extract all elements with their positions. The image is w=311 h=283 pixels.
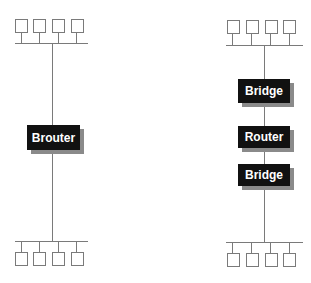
router-label: Router [245, 130, 284, 144]
left-top-drop-3 [58, 33, 59, 43]
left-top-drop-1 [21, 33, 22, 43]
left-bottom-bus [15, 241, 88, 242]
right-bottom-bus [226, 242, 303, 243]
right-top-drop-2 [251, 34, 252, 45]
bridge-bottom-label: Bridge [245, 168, 283, 182]
right-bottom-drop-1 [232, 242, 233, 253]
right-bottom-host-3 [265, 253, 278, 267]
left-bottom-host-1 [15, 252, 28, 266]
right-top-host-1 [227, 20, 240, 34]
left-top-drop-4 [76, 33, 77, 43]
bridge-top-label: Bridge [245, 84, 283, 98]
left-bottom-drop-3 [58, 241, 59, 252]
right-bottom-drop-4 [289, 242, 290, 253]
bridge-box-bottom: Bridge [238, 164, 290, 186]
left-bottom-drop-1 [21, 241, 22, 252]
right-bottom-host-4 [283, 253, 296, 267]
left-top-drop-2 [39, 33, 40, 43]
right-top-host-2 [246, 20, 259, 34]
right-bottom-drop-2 [251, 242, 252, 253]
right-top-host-3 [265, 20, 278, 34]
right-top-drop-4 [289, 34, 290, 45]
brouter-box: Brouter [27, 125, 80, 150]
left-bottom-drop-4 [76, 241, 77, 252]
left-top-host-1 [15, 19, 28, 33]
right-top-drop-3 [270, 34, 271, 45]
right-bottom-host-2 [246, 253, 259, 267]
left-bottom-host-2 [33, 252, 46, 266]
brouter-label: Brouter [32, 131, 75, 145]
left-top-host-3 [52, 19, 65, 33]
left-top-host-4 [71, 19, 84, 33]
bridge-box-top: Bridge [238, 79, 290, 103]
left-bottom-host-4 [71, 252, 84, 266]
right-bottom-drop-3 [270, 242, 271, 253]
left-bottom-drop-2 [39, 241, 40, 252]
left-bottom-host-3 [52, 252, 65, 266]
router-box: Router [238, 126, 290, 148]
left-top-host-2 [33, 19, 46, 33]
right-top-drop-1 [232, 34, 233, 45]
right-bottom-host-1 [227, 253, 240, 267]
right-top-host-4 [283, 20, 296, 34]
